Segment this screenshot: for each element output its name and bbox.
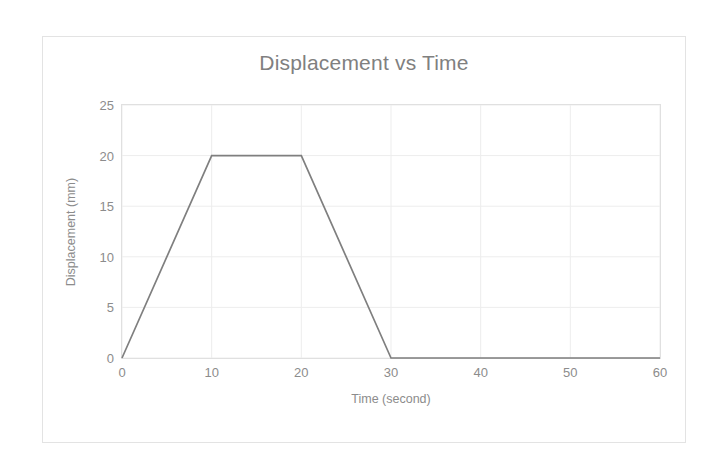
series-line-displacement — [122, 156, 660, 358]
x-tick-label: 60 — [653, 365, 667, 380]
y-tick-label: 10 — [100, 249, 114, 264]
chart-frame: Displacement vs Time Displacement (mm) 0… — [42, 36, 686, 443]
chart-title: Displacement vs Time — [43, 51, 685, 75]
y-tick-label: 20 — [100, 148, 114, 163]
x-axis-title: Time (second) — [121, 392, 661, 406]
data-series-layer — [122, 105, 660, 358]
x-tick-label: 50 — [563, 365, 577, 380]
y-tick-label: 15 — [100, 199, 114, 214]
x-tick-label: 20 — [294, 365, 308, 380]
x-tick-label: 10 — [204, 365, 218, 380]
y-axis-title: Displacement (mm) — [64, 132, 78, 332]
x-tick-label: 40 — [473, 365, 487, 380]
y-tick-label: 25 — [100, 98, 114, 113]
x-tick-label: 30 — [384, 365, 398, 380]
plot-area: 0510152025 0102030405060 — [121, 104, 661, 359]
x-tick-label: 0 — [118, 365, 125, 380]
y-tick-label: 5 — [107, 300, 114, 315]
y-tick-label: 0 — [107, 351, 114, 366]
